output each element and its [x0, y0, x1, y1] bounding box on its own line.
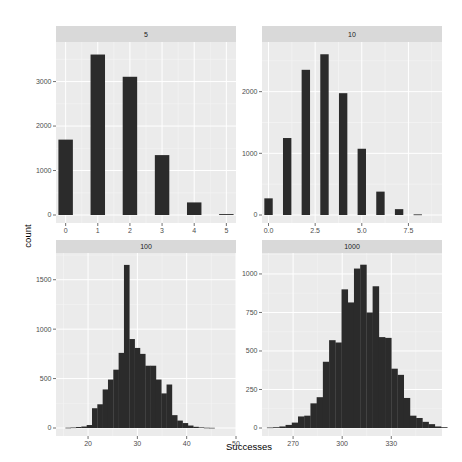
facet-strip-label: 100 [140, 243, 152, 250]
y-tick-label: 1000 [242, 150, 258, 157]
histogram-bin [92, 408, 98, 428]
facet-strip-label: 5 [144, 31, 148, 38]
histogram-bin [317, 397, 324, 428]
histogram-bin [416, 418, 423, 428]
histogram-bin [81, 427, 87, 428]
histogram-bin [410, 416, 417, 428]
histogram-bin [145, 366, 151, 428]
histogram-bin [65, 428, 71, 429]
y-tick-label: 500 [40, 375, 52, 382]
histogram-bin [119, 353, 125, 428]
histogram-bin [354, 269, 361, 428]
histogram-bin [329, 340, 336, 428]
y-tick-label: 500 [246, 347, 258, 354]
y-tick-label: 0 [48, 211, 52, 218]
histogram-bin [323, 362, 330, 428]
x-tick-label: 2.5 [310, 227, 320, 234]
histogram-bin [429, 424, 436, 428]
bar [91, 55, 105, 215]
x-tick-label: 3 [160, 227, 164, 234]
facet-strip-label: 1000 [344, 243, 360, 250]
bar [339, 93, 347, 215]
x-tick-label: 0 [64, 227, 68, 234]
histogram-bin [366, 312, 373, 428]
bar [187, 202, 201, 215]
bar [123, 77, 137, 215]
histogram-bin [193, 427, 199, 428]
histogram-bin [183, 423, 189, 428]
x-tick-label: 1 [96, 227, 100, 234]
histogram-bin [172, 415, 178, 428]
histogram-bin [135, 348, 141, 428]
histogram-bin [404, 398, 411, 428]
bar [219, 214, 233, 215]
bar [302, 70, 310, 215]
histogram-bin [204, 428, 210, 429]
panel-100: 10005001000150020304050 [36, 240, 240, 447]
histogram-bin [129, 339, 135, 428]
histogram-bin [177, 421, 183, 428]
bar [414, 214, 422, 215]
bar [264, 198, 272, 215]
x-tick-label: 5 [224, 227, 228, 234]
histogram-bin [151, 366, 157, 428]
histogram-bin [156, 380, 162, 428]
y-tick-label: 0 [254, 424, 258, 431]
histogram-bin [298, 416, 305, 428]
y-tick-label: 2000 [36, 122, 52, 129]
histogram-bin [188, 426, 194, 428]
histogram-bin [391, 369, 398, 428]
y-tick-label: 0 [48, 424, 52, 431]
panel-5: 50100020003000012345 [36, 26, 236, 234]
y-tick-label: 750 [246, 309, 258, 316]
y-tick-label: 1000 [36, 326, 52, 333]
histogram-bin [373, 286, 380, 428]
histogram-bin [267, 428, 274, 429]
bar [155, 155, 169, 215]
facet-strip-label: 10 [348, 31, 356, 38]
histogram-bin [335, 343, 342, 429]
histogram-bin [113, 370, 119, 428]
x-tick-label: 300 [336, 440, 348, 447]
histogram-bin [348, 302, 355, 428]
histogram-bin [286, 425, 293, 428]
histogram-bin [71, 428, 77, 429]
y-tick-label: 1000 [242, 270, 258, 277]
faceted-histogram-chart: 50100020003000012345100100020000.02.55.0… [0, 0, 462, 462]
x-tick-label: 5.0 [357, 227, 367, 234]
histogram-bin [435, 426, 442, 428]
x-tick-label: 0.0 [264, 227, 274, 234]
histogram-bin [422, 422, 429, 428]
x-tick-label: 7.5 [404, 227, 414, 234]
histogram-bin [124, 265, 130, 428]
histogram-bin [292, 423, 299, 428]
y-tick-label: 250 [246, 386, 258, 393]
x-axis-title: Successes [226, 441, 272, 452]
y-tick-label: 0 [254, 211, 258, 218]
histogram-bin [360, 265, 367, 428]
panel-1000: 100002505007501000270300330 [242, 240, 448, 447]
histogram-bin [161, 393, 167, 428]
bar [58, 140, 72, 215]
histogram-bin [397, 375, 404, 428]
x-tick-label: 30 [133, 440, 141, 447]
bar [320, 54, 328, 215]
bar [283, 138, 291, 215]
histogram-bin [103, 389, 109, 428]
x-tick-label: 330 [385, 440, 397, 447]
histogram-bin [167, 385, 173, 428]
histogram-bin [76, 427, 82, 428]
histogram-bin [199, 427, 205, 428]
histogram-bin [140, 354, 146, 428]
histogram-bin [209, 428, 215, 429]
histogram-bin [304, 416, 311, 428]
y-tick-label: 3000 [36, 78, 52, 85]
histogram-bin [441, 427, 448, 428]
histogram-bin [342, 289, 349, 428]
histogram-bin [279, 426, 286, 428]
bar [358, 149, 366, 215]
y-tick-label: 1500 [36, 276, 52, 283]
histogram-bin [97, 404, 103, 428]
bar [395, 209, 403, 215]
histogram-bin [385, 338, 392, 428]
